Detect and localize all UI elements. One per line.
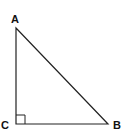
triangle-diagram: A B C (0, 0, 125, 135)
triangle-abc (16, 28, 108, 124)
vertex-label-a: A (11, 13, 19, 25)
vertex-label-c: C (1, 119, 9, 131)
right-angle-marker (16, 115, 25, 124)
vertex-label-b: B (113, 119, 121, 131)
